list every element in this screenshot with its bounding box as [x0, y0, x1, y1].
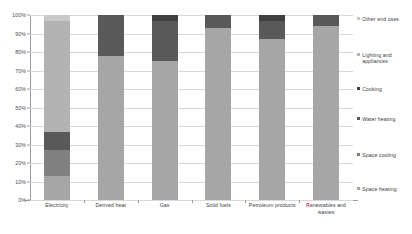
- legend-label: Space heating: [362, 186, 396, 192]
- bar-series-container: [30, 15, 353, 200]
- bar-group: [313, 15, 339, 200]
- legend-label: Water heating: [362, 116, 395, 122]
- stacked-bar-chart: 0%10%20%30%40%50%60%70%80%90%100% Electr…: [0, 0, 412, 234]
- x-axis-category-label: Solid fuels: [192, 202, 246, 209]
- bar-segment[interactable]: [259, 15, 285, 21]
- bar-segment[interactable]: [205, 15, 231, 28]
- legend-item[interactable]: Lighting and appliances: [357, 52, 392, 65]
- bar-segment[interactable]: [313, 15, 339, 26]
- bar-segment[interactable]: [44, 15, 70, 21]
- y-axis-tick-label: 0%: [18, 197, 30, 203]
- bar-segment[interactable]: [44, 132, 70, 151]
- bar-group: [152, 15, 178, 200]
- x-axis-category-label: Electricity: [30, 202, 84, 209]
- bar-segment[interactable]: [98, 56, 124, 200]
- bar-group: [44, 15, 70, 200]
- bar-segment[interactable]: [259, 39, 285, 200]
- bar-group: [205, 15, 231, 200]
- bar-segment[interactable]: [205, 28, 231, 200]
- bar-group: [259, 15, 285, 200]
- y-axis-tick-label: 60%: [15, 86, 30, 92]
- y-axis-tick-label: 50%: [15, 105, 30, 111]
- legend-swatch-icon: [357, 17, 360, 20]
- plot-area: 0%10%20%30%40%50%60%70%80%90%100%: [30, 15, 353, 200]
- bar-segment[interactable]: [152, 15, 178, 21]
- x-axis-category-label: Petroleum products: [245, 202, 299, 209]
- legend-swatch-icon: [357, 153, 360, 156]
- bar-group: [98, 15, 124, 200]
- legend-swatch-icon: [357, 87, 360, 90]
- y-axis-tick-label: 70%: [15, 68, 30, 74]
- legend-label: Cooking: [362, 86, 382, 92]
- y-axis-tick-label: 20%: [15, 160, 30, 166]
- legend-item[interactable]: Space heating: [357, 186, 397, 192]
- x-axis-category-label: Gas: [138, 202, 192, 209]
- y-axis-tick-label: 80%: [15, 49, 30, 55]
- y-axis-tick-label: 90%: [15, 31, 30, 37]
- y-axis-tick-label: 30%: [15, 142, 30, 148]
- y-axis-tick-label: 100%: [12, 12, 30, 18]
- bar-segment[interactable]: [313, 26, 339, 200]
- legend-label: Other end uses: [362, 16, 399, 22]
- y-axis-tick-label: 40%: [15, 123, 30, 129]
- legend-item[interactable]: Other end uses: [357, 16, 399, 22]
- legend-item[interactable]: Space cooling: [357, 152, 396, 158]
- x-axis-category-label: Renewables and wastes: [299, 202, 353, 216]
- stacked-bar[interactable]: [44, 15, 70, 200]
- legend-label: Space cooling: [362, 152, 396, 158]
- bar-segment[interactable]: [98, 15, 124, 56]
- stacked-bar[interactable]: [205, 15, 231, 200]
- legend-swatch-icon: [357, 117, 360, 120]
- chart-legend: Other end usesLighting and appliancesCoo…: [357, 14, 412, 200]
- legend-label: Lighting and appliances: [362, 52, 391, 65]
- y-axis-tick-label: 10%: [15, 179, 30, 185]
- stacked-bar[interactable]: [259, 15, 285, 200]
- bar-segment[interactable]: [259, 21, 285, 40]
- bar-segment[interactable]: [44, 150, 70, 176]
- bar-segment[interactable]: [152, 21, 178, 62]
- bar-segment[interactable]: [44, 176, 70, 200]
- bar-segment[interactable]: [44, 21, 70, 132]
- bar-segment[interactable]: [152, 61, 178, 200]
- stacked-bar[interactable]: [313, 15, 339, 200]
- x-axis-labels: ElectricityDerived heatGasSolid fuelsPet…: [30, 202, 353, 234]
- legend-swatch-icon: [357, 187, 360, 190]
- stacked-bar[interactable]: [152, 15, 178, 200]
- legend-swatch-icon: [357, 53, 360, 56]
- legend-item[interactable]: Cooking: [357, 86, 382, 92]
- x-axis-category-label: Derived heat: [84, 202, 138, 209]
- legend-item[interactable]: Water heating: [357, 116, 396, 122]
- stacked-bar[interactable]: [98, 15, 124, 200]
